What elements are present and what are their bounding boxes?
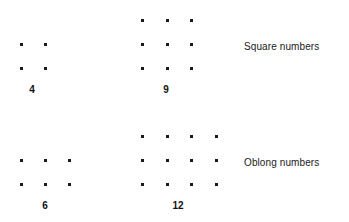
dot xyxy=(190,19,193,22)
dot xyxy=(141,159,144,162)
dot xyxy=(166,135,169,138)
series-label-oblong-numbers: Oblong numbers xyxy=(244,157,319,168)
dot xyxy=(190,159,193,162)
dot xyxy=(20,183,23,186)
dot xyxy=(44,67,47,70)
dot xyxy=(141,183,144,186)
dot xyxy=(166,159,169,162)
dot xyxy=(20,159,23,162)
dot xyxy=(190,67,193,70)
dot-array-figure: 49Square numbers612Oblong numbers xyxy=(0,0,349,222)
dot xyxy=(190,135,193,138)
dot xyxy=(215,183,218,186)
dot xyxy=(141,67,144,70)
group-value-label-9: 9 xyxy=(146,84,186,95)
dot xyxy=(44,43,47,46)
dot xyxy=(215,135,218,138)
dot xyxy=(141,135,144,138)
dot xyxy=(141,19,144,22)
dot xyxy=(166,183,169,186)
dot xyxy=(20,67,23,70)
dot xyxy=(190,183,193,186)
series-label-square-numbers: Square numbers xyxy=(244,41,319,52)
group-value-label-6: 6 xyxy=(25,200,65,211)
group-value-label-4: 4 xyxy=(12,84,52,95)
dot xyxy=(215,159,218,162)
dot xyxy=(44,159,47,162)
dot xyxy=(68,159,71,162)
dot xyxy=(166,67,169,70)
dot xyxy=(44,183,47,186)
group-value-label-12: 12 xyxy=(158,200,198,211)
dot xyxy=(166,19,169,22)
dot xyxy=(141,43,144,46)
dot xyxy=(166,43,169,46)
dot xyxy=(68,183,71,186)
dot xyxy=(190,43,193,46)
dot xyxy=(20,43,23,46)
